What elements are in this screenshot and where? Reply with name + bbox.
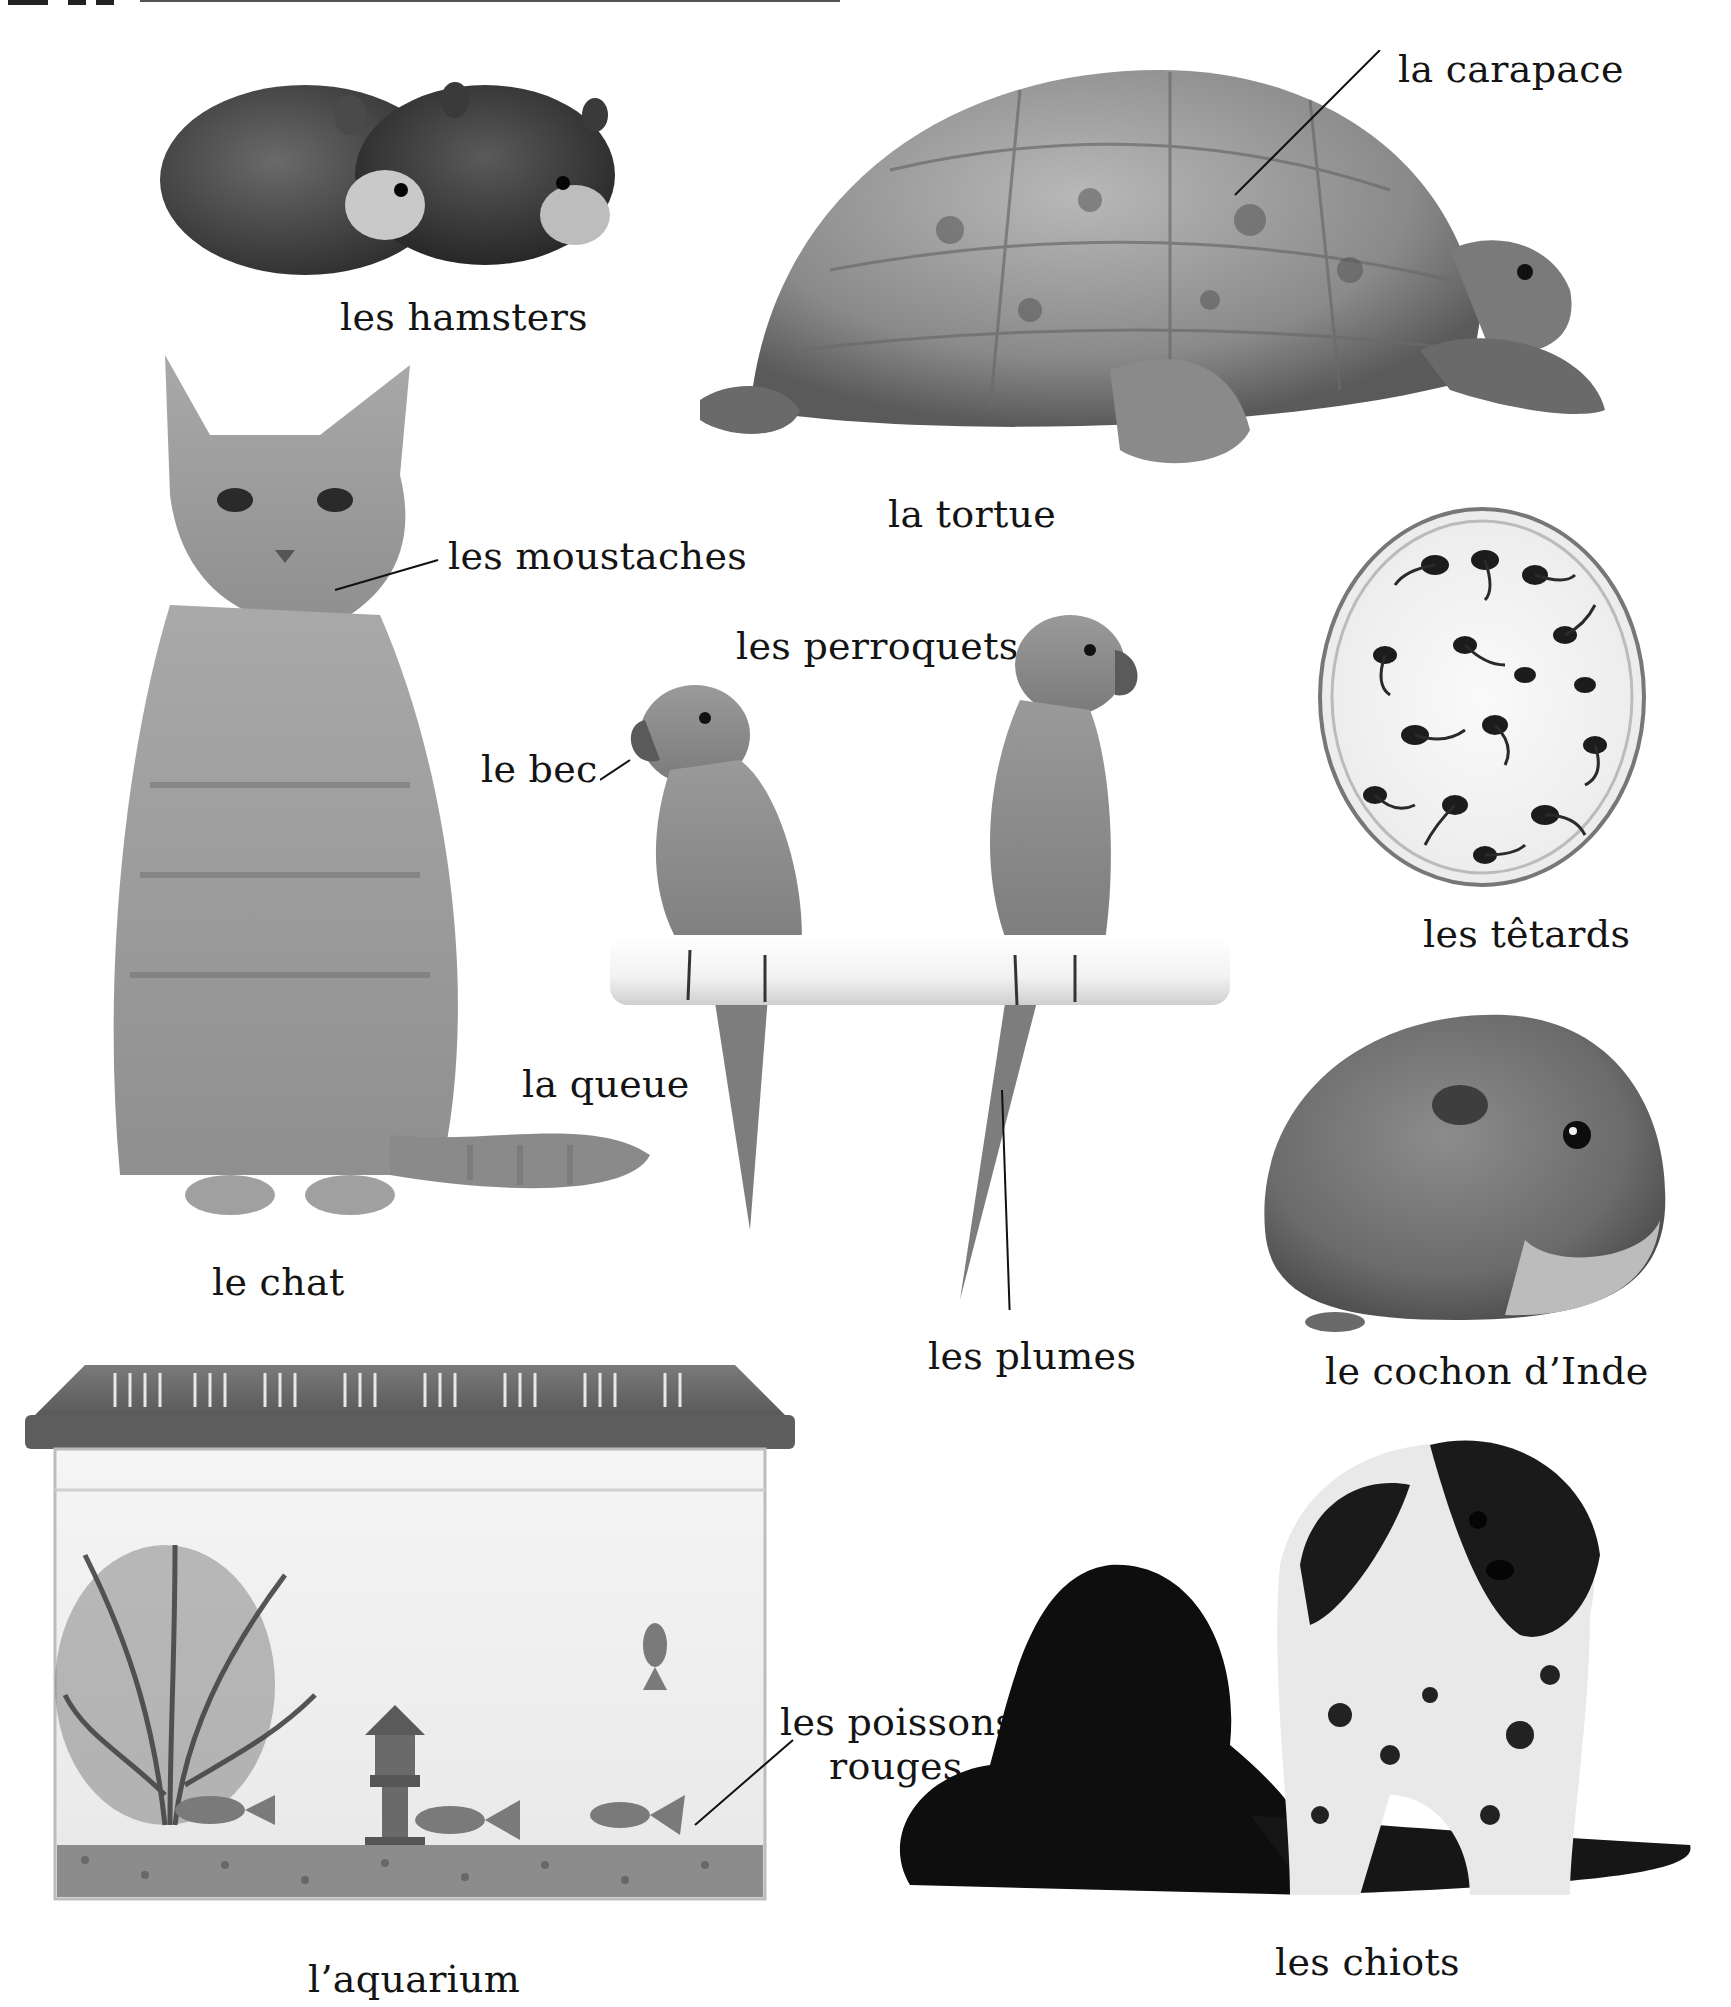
label-guinea-pig: le cochon d’Inde <box>1325 1352 1649 1390</box>
label-aquarium: l’aquarium <box>308 1960 520 1998</box>
label-hamsters: les hamsters <box>340 298 588 336</box>
parrots-photo <box>600 610 1240 1310</box>
label-puppies: les chiots <box>1275 1943 1460 1981</box>
label-whiskers: les moustaches <box>448 537 747 575</box>
tortoise-photo <box>690 50 1610 500</box>
aquarium-photo <box>25 1355 795 1925</box>
label-tortoise: la tortue <box>888 495 1056 533</box>
cropped-heading-strip <box>0 0 900 6</box>
puppies-photo <box>870 1415 1710 1915</box>
label-tadpoles: les têtards <box>1423 915 1630 953</box>
label-beak: le bec <box>481 750 598 788</box>
label-carapace: la carapace <box>1398 50 1624 88</box>
label-feathers: les plumes <box>928 1337 1136 1375</box>
tadpoles-petri-dish-photo <box>1315 505 1650 890</box>
guinea-pig-photo <box>1255 1000 1675 1335</box>
hamsters-photo <box>155 55 625 285</box>
label-cat: le chat <box>212 1263 345 1301</box>
